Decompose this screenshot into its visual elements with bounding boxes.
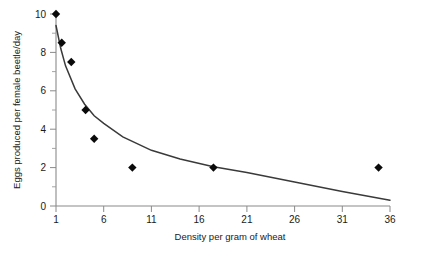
x-tick-label: 26 — [289, 214, 301, 225]
x-axis-title: Density per gram of wheat — [175, 231, 286, 242]
x-tick-label: 21 — [241, 214, 253, 225]
y-tick-label: 2 — [40, 162, 46, 173]
y-tick-label: 8 — [40, 47, 46, 58]
x-tick-label: 16 — [194, 214, 206, 225]
x-tick-label: 11 — [146, 214, 157, 225]
y-tick-label: 6 — [40, 85, 46, 96]
x-tick-label: 6 — [101, 214, 107, 225]
y-tick-label: 0 — [40, 201, 46, 212]
x-tick-label: 31 — [337, 214, 349, 225]
x-tick-label: 36 — [384, 214, 396, 225]
chart-background — [0, 0, 430, 253]
y-tick-label: 10 — [35, 9, 47, 20]
x-tick-label: 1 — [53, 214, 59, 225]
chart-figure: Eggs produced per female beetle/day Dens… — [0, 0, 430, 253]
y-tick-label: 4 — [40, 124, 46, 135]
y-axis-title: Eggs produced per female beetle/day — [11, 31, 22, 189]
